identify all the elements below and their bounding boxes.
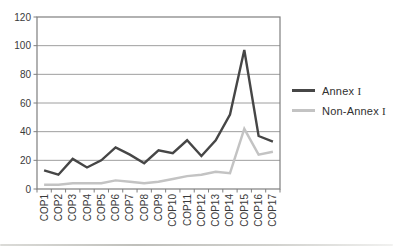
legend-item-annex-i: Annex I <box>292 84 386 97</box>
x-tick-label: COP2 <box>53 194 64 222</box>
legend-label: Non-Annex I <box>322 105 386 117</box>
legend-label: Annex I <box>322 85 361 97</box>
x-tick-label: COP17 <box>267 194 278 227</box>
non-annex-i-line <box>44 129 273 185</box>
cop-participation-line-chart-figure: 020406080100120COP1COP2COP3COP4COP5COP6C… <box>0 0 393 247</box>
y-tick-label: 20 <box>20 155 32 166</box>
x-tick-label: COP5 <box>96 194 107 222</box>
line-chart: 020406080100120COP1COP2COP3COP4COP5COP6C… <box>0 0 393 247</box>
y-tick-label: 60 <box>20 98 32 109</box>
x-tick-label: COP9 <box>153 194 164 222</box>
roman-numeral: I <box>357 85 361 97</box>
x-tick-label: COP11 <box>182 194 193 226</box>
chart-legend: Annex INon-Annex I <box>292 84 386 117</box>
annex-i-line <box>44 50 273 175</box>
x-tick-label: COP12 <box>196 194 207 227</box>
x-tick-label: COP8 <box>139 194 150 222</box>
legend-item-non-annex-i: Non-Annex I <box>292 104 386 117</box>
x-tick-label: COP16 <box>253 194 264 227</box>
x-tick-label: COP4 <box>82 194 93 222</box>
x-tick-label: COP10 <box>167 194 178 227</box>
y-tick-label: 0 <box>25 184 31 195</box>
x-tick-label: COP14 <box>224 194 235 227</box>
y-tick-label: 40 <box>20 126 32 137</box>
x-tick-label: COP13 <box>210 194 221 227</box>
x-tick-label: COP7 <box>124 194 135 222</box>
x-tick-label: COP15 <box>239 194 250 227</box>
y-tick-label: 100 <box>14 40 31 51</box>
legend-line-swatch <box>292 109 315 112</box>
page-bottom-edge <box>0 244 393 246</box>
y-tick-label: 80 <box>20 69 32 80</box>
x-tick-label: COP1 <box>39 194 50 222</box>
legend-line-swatch <box>292 89 315 92</box>
roman-numeral: I <box>382 105 386 117</box>
y-tick-label: 120 <box>14 12 31 23</box>
x-tick-label: COP3 <box>67 194 78 222</box>
x-tick-label: COP6 <box>110 194 121 222</box>
